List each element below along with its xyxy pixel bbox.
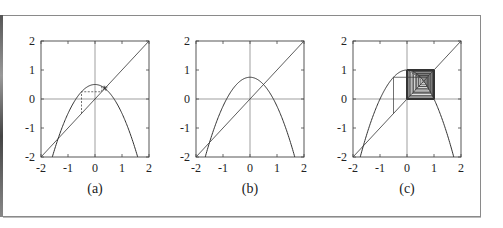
x-tick-label: 0 (92, 161, 98, 175)
y-tick-label: 0 (341, 92, 347, 106)
panel-a: -2-1012-2-1012(a) (25, 34, 152, 201)
x-tick-label: 1 (119, 161, 125, 175)
x-tick-label: -1 (375, 161, 385, 175)
x-tick-label: 2 (146, 161, 152, 175)
x-tick-label: -1 (63, 161, 73, 175)
y-tick-label: 1 (341, 63, 347, 77)
panel-caption: (c) (399, 181, 415, 197)
x-tick-label: 2 (301, 161, 307, 175)
x-tick-label: -1 (218, 161, 228, 175)
y-tick-label: 1 (184, 63, 190, 77)
y-tick-label: 1 (29, 63, 35, 77)
x-tick-label: 0 (247, 161, 253, 175)
y-tick-label: 0 (29, 92, 35, 106)
y-tick-label: 2 (341, 34, 347, 48)
panel-c: -2-1012-2-1012(c) (337, 34, 464, 197)
x-tick-label: -2 (348, 161, 358, 175)
y-tick-label: -1 (337, 121, 347, 135)
x-tick-label: 1 (431, 161, 437, 175)
x-tick-label: 2 (458, 161, 464, 175)
figure-panels: -2-1012-2-1012(a)-2-1012-2-1012(b)-2-101… (0, 0, 503, 228)
x-tick-label: -2 (191, 161, 201, 175)
panel-caption: (a) (87, 181, 103, 197)
y-tick-label: 2 (29, 34, 35, 48)
panel-caption: (b) (242, 181, 259, 197)
x-tick-label: -2 (36, 161, 46, 175)
x-tick-label: 1 (274, 161, 280, 175)
y-tick-label: -2 (25, 150, 35, 164)
y-tick-label: -2 (337, 150, 347, 164)
y-tick-label: 2 (184, 34, 190, 48)
y-tick-label: 0 (184, 92, 190, 106)
y-tick-label: -1 (25, 121, 35, 135)
panel-b: -2-1012-2-1012(b) (180, 34, 307, 197)
x-tick-label: 0 (404, 161, 410, 175)
y-tick-label: -2 (180, 150, 190, 164)
y-tick-label: -1 (180, 121, 190, 135)
